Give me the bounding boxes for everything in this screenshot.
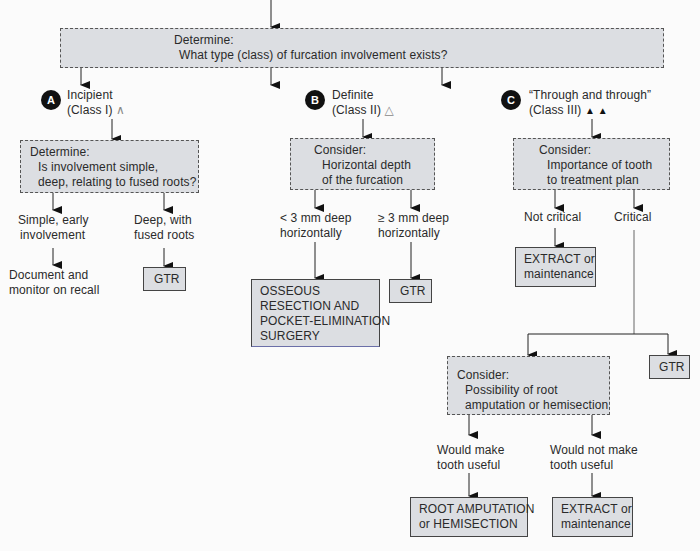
would-not-make-useful-line2: tooth useful xyxy=(550,458,613,473)
branch-c-box-line1: Importance of tooth xyxy=(547,158,652,173)
would-make-useful-line2: tooth useful xyxy=(437,458,500,473)
branch-c-box-heading: Consider: xyxy=(539,143,591,158)
branch-c-title: “Through and through” xyxy=(529,88,651,103)
branch-a-class: (Class I) ∧ xyxy=(67,103,125,118)
branch-b-left-option-line1: < 3 mm deep xyxy=(280,211,351,226)
root-amputation-box: ROOT AMPUTATION or HEMISECTION xyxy=(410,497,528,537)
branch-b-gtr-label: GTR xyxy=(400,284,426,299)
would-not-make-useful-line1: Would not make xyxy=(550,443,638,458)
branch-b-class: (Class II) △ xyxy=(332,103,394,118)
branch-a-gtr-label: GTR xyxy=(154,272,180,287)
class-i-symbol-icon: ∧ xyxy=(116,103,125,117)
branch-c-gtr-label: GTR xyxy=(659,360,685,375)
branch-c-box-line2: to treatment plan xyxy=(547,173,639,188)
badge-a: A xyxy=(41,90,61,110)
class-iii-symbol-icon: ▲ ▲ xyxy=(585,105,608,116)
branch-a-decision-box: Determine: Is involvement simple, deep, … xyxy=(20,140,199,193)
branch-a-left-result-line2: monitor on recall xyxy=(9,283,99,298)
branch-a-title: Incipient xyxy=(67,88,113,103)
osseous-line1: OSSEOUS xyxy=(260,284,320,299)
branch-b-box-heading: Consider: xyxy=(314,143,366,158)
badge-b: B xyxy=(305,90,325,110)
top-question: What type (class) of furcation involveme… xyxy=(179,48,447,63)
branch-c-class: (Class III) ▲ ▲ xyxy=(529,103,608,118)
branch-a-box-heading: Determine: xyxy=(30,145,90,160)
badge-c: C xyxy=(501,90,521,110)
class-ii-symbol-icon: △ xyxy=(384,103,393,117)
branch-b-left-option-line2: horizontally xyxy=(280,226,342,241)
sub-extract-line2: maintenance xyxy=(561,517,631,532)
branch-c-extract-line1: EXTRACT or xyxy=(524,252,595,267)
would-make-useful-line1: Would make xyxy=(437,443,504,458)
osseous-line4: SURGERY xyxy=(260,329,320,344)
sub-box-line2: amputation or hemisection xyxy=(465,398,608,413)
branch-c-gtr-box: GTR xyxy=(649,355,690,379)
branch-b-right-option-line2: horizontally xyxy=(378,226,440,241)
critical-label: Critical xyxy=(614,210,651,225)
not-critical-label: Not critical xyxy=(524,210,581,225)
branch-a-right-option-line2: fused roots xyxy=(134,228,194,243)
furcation-class-decision-box: Determine: What type (class) of furcatio… xyxy=(60,28,664,68)
branch-a-gtr-box: GTR xyxy=(143,267,186,291)
branch-a-box-line2: deep, relating to fused roots? xyxy=(38,175,196,190)
root-amputation-line1: ROOT AMPUTATION xyxy=(419,502,535,517)
sub-box-heading: Consider: xyxy=(457,368,509,383)
branch-a-left-option-line2: involvement xyxy=(20,228,85,243)
root-amputation-line2: or HEMISECTION xyxy=(419,517,518,532)
branch-c-extract-line2: maintenance xyxy=(524,267,594,282)
branch-b-title: Definite xyxy=(332,88,374,103)
root-amputation-decision-box: Consider: Possibility of root amputation… xyxy=(447,356,610,415)
branch-c-extract-box: EXTRACT or maintenance xyxy=(515,247,596,287)
sub-extract-line1: EXTRACT or xyxy=(561,502,632,517)
branch-b-decision-box: Consider: Horizontal depth of the furcat… xyxy=(290,138,435,190)
branch-a-box-line1: Is involvement simple, xyxy=(38,160,158,175)
top-heading: Determine: xyxy=(174,33,234,48)
branch-b-box-line1: Horizontal depth xyxy=(322,158,411,173)
sub-extract-box: EXTRACT or maintenance xyxy=(552,497,633,537)
branch-b-right-option-line1: ≥ 3 mm deep xyxy=(378,211,449,226)
sub-box-line1: Possibility of root xyxy=(465,383,558,398)
osseous-resection-box: OSSEOUS RESECTION AND POCKET-ELIMINATION… xyxy=(251,279,380,347)
branch-a-right-option-line1: Deep, with xyxy=(134,213,192,228)
branch-b-box-line2: of the furcation xyxy=(322,173,403,188)
osseous-line2: RESECTION AND xyxy=(260,299,359,314)
branch-b-gtr-box: GTR xyxy=(389,279,432,303)
branch-c-decision-box: Consider: Importance of tooth to treatme… xyxy=(513,138,670,190)
branch-a-left-option: Simple, early xyxy=(18,213,89,228)
osseous-line3: POCKET-ELIMINATION xyxy=(260,314,390,329)
branch-a-left-result-line1: Document and xyxy=(9,268,88,283)
